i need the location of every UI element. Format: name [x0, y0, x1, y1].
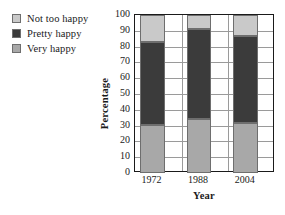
bar-segment — [187, 29, 212, 119]
bar-group — [135, 15, 273, 171]
x-axis-tick-labels: 197219882004 — [134, 174, 274, 188]
bar-segment — [187, 119, 212, 173]
y-axis-tick-label: 90 — [120, 25, 130, 35]
bar-1972 — [140, 15, 165, 171]
y-axis-tick-label: 70 — [120, 56, 130, 66]
x-axis-tick-label: 1972 — [141, 174, 161, 186]
bar-1988 — [187, 15, 212, 171]
bar-segment — [140, 125, 165, 173]
bar-segment — [233, 15, 258, 36]
bar-segment — [187, 15, 212, 29]
legend-item-label: Pretty happy — [27, 28, 82, 39]
legend-item: Very happy — [12, 41, 112, 55]
plot-area — [134, 14, 274, 172]
legend-item: Not too happy — [12, 11, 112, 25]
stacked-bar-chart: Not too happyPretty happyVery happy Perc… — [0, 0, 285, 215]
y-axis-tick-label: 20 — [120, 135, 130, 145]
y-axis-tick-label: 60 — [120, 72, 130, 82]
bar-segment — [140, 42, 165, 125]
y-axis-tick-label: 30 — [120, 120, 130, 130]
legend-swatch-icon — [12, 29, 21, 38]
y-axis-title: Percentage — [98, 58, 112, 148]
legend-item-label: Not too happy — [27, 13, 88, 24]
y-axis-tick-label: 40 — [120, 104, 130, 114]
x-axis-title: Year — [134, 190, 274, 201]
x-axis-tick-label: 2004 — [235, 174, 255, 186]
y-axis-tick-label: 50 — [120, 88, 130, 98]
legend-item: Pretty happy — [12, 26, 112, 40]
bar-segment — [233, 123, 258, 173]
y-axis-title-text: Percentage — [100, 77, 111, 128]
legend-swatch-icon — [12, 14, 21, 23]
legend-item-label: Very happy — [27, 43, 76, 54]
chart-legend: Not too happyPretty happyVery happy — [12, 11, 112, 56]
y-axis-tick-label: 80 — [120, 41, 130, 51]
x-axis-tick-label: 1988 — [188, 174, 208, 186]
y-axis-tick-label: 10 — [120, 151, 130, 161]
y-axis-tick-label: 0 — [125, 167, 130, 177]
bar-segment — [140, 15, 165, 42]
bar-2004 — [233, 15, 258, 171]
y-axis-tick-labels: 0102030405060708090100 — [112, 14, 133, 172]
bar-segment — [233, 36, 258, 123]
legend-swatch-icon — [12, 44, 21, 53]
y-axis-tick-label: 100 — [115, 9, 130, 19]
